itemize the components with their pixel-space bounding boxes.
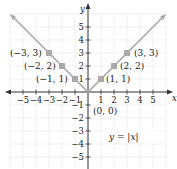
svg-text:−2: −2 [71, 113, 84, 123]
svg-text:2: 2 [79, 61, 84, 71]
svg-text:3: 3 [124, 95, 129, 105]
equation-label: y = |x| [108, 132, 139, 143]
absolute-value-graph: −5 −4 −3 −2 −1 1 2 3 4 5 x y 5 4 3 2 1 −… [0, 0, 177, 169]
y-axis-label: y [79, 4, 85, 14]
svg-text:3: 3 [79, 48, 84, 58]
svg-text:−2: −2 [56, 95, 69, 105]
svg-text:4: 4 [79, 35, 84, 45]
svg-text:2: 2 [111, 95, 116, 105]
svg-text:−1: −1 [71, 100, 84, 110]
svg-text:4: 4 [137, 95, 142, 105]
point-label: (3, 3) [134, 48, 158, 58]
svg-text:−5: −5 [17, 95, 30, 105]
point-label: (0, 0) [93, 106, 117, 116]
point-label: (−1, 1) [36, 74, 68, 84]
svg-text:−5: −5 [71, 152, 84, 162]
y-axis-arrow-icon [86, 3, 91, 9]
svg-text:−4: −4 [30, 95, 43, 105]
point-labels: (−3, 3) (−2, 2) (−1, 1) (0, 0) (1, 1) (2… [10, 48, 158, 116]
x-axis-label: x [172, 93, 177, 103]
point-label: (−2, 2) [24, 61, 56, 71]
coordinate-plane: −5 −4 −3 −2 −1 1 2 3 4 5 x y 5 4 3 2 1 −… [0, 0, 177, 169]
x-axis-arrow-left-icon [5, 90, 11, 95]
x-tick-labels: −5 −4 −3 −2 −1 1 2 3 4 5 [17, 95, 156, 105]
point-label: (2, 2) [120, 61, 144, 71]
svg-text:1: 1 [98, 95, 103, 105]
svg-text:5: 5 [150, 95, 155, 105]
point-label: (−3, 3) [10, 48, 42, 58]
svg-text:−3: −3 [43, 95, 56, 105]
point-label: (1, 1) [106, 74, 130, 84]
svg-text:−3: −3 [71, 126, 84, 136]
svg-text:−4: −4 [71, 139, 84, 149]
axes [8, 6, 170, 169]
svg-text:5: 5 [79, 22, 84, 32]
